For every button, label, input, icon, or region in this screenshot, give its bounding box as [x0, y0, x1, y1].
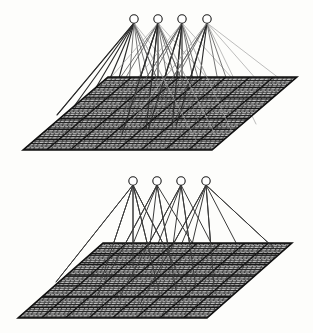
lower-node-3 — [177, 177, 185, 185]
network-grid-figure — [0, 0, 313, 333]
lower-node-1 — [129, 177, 137, 185]
upper-node-3 — [178, 15, 186, 23]
lower-node-4 — [202, 177, 210, 185]
lower-node-2 — [153, 177, 161, 185]
upper-node-4 — [203, 15, 211, 23]
upper-node-2 — [154, 15, 162, 23]
upper-node-1 — [130, 15, 138, 23]
